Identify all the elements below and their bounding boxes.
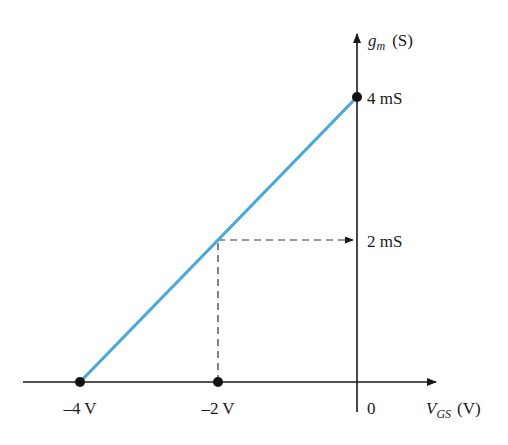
x-tick-0: 0 (367, 399, 376, 418)
x-axis-label: VGS(V) (426, 399, 481, 421)
y-tick-2ms: 2 mS (367, 232, 402, 251)
point-4ms (352, 92, 362, 102)
point-neg4v (75, 377, 85, 387)
y-axis-label: gm(S) (368, 31, 413, 53)
y-tick-4ms: 4 mS (367, 89, 402, 108)
x-tick-neg4v: –4 V (62, 399, 97, 418)
x-tick-neg2v: –2 V (200, 399, 235, 418)
gm-vs-vgs-chart: gm(S) 4 mS 2 mS –4 V –2 V 0 VGS(V) (0, 0, 508, 445)
point-neg2v (213, 377, 223, 387)
